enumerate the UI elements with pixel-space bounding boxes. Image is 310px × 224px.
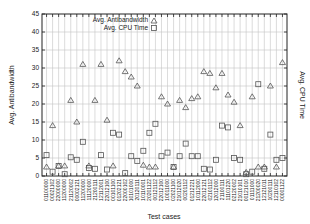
data-points <box>44 58 286 177</box>
y-tick-label: 35 <box>32 46 40 53</box>
triangle-marker-icon <box>151 18 157 23</box>
y-tick-label: 30 <box>32 64 40 71</box>
y-axis-label: Avg. Antibandwidth <box>8 65 16 125</box>
square-marker-icon <box>152 26 157 31</box>
y-tick-label: 25 <box>32 82 40 89</box>
y-tick-label: 0 <box>35 172 39 179</box>
y-tick-label: 20 <box>32 100 40 107</box>
y-tick-label: 15 <box>32 118 40 125</box>
y-tick-label: 40 <box>32 28 40 35</box>
x-tick-label: 00001122 <box>279 179 285 201</box>
y-tick-label: 45 <box>32 10 40 17</box>
y-tick-label: 10 <box>32 136 40 143</box>
legend-label-antibandwidth: Avg. Antibandwidth <box>93 16 149 24</box>
y2-axis-label: Avg. CPU Time <box>298 71 306 119</box>
scatter-chart: 051015202530354045 011000000002110222000… <box>0 0 310 224</box>
y-tick-label: 5 <box>35 154 39 161</box>
x-axis-label: Test cases <box>147 213 181 220</box>
plot-frame <box>42 14 287 176</box>
grid-lines <box>42 14 287 176</box>
legend: Avg. Antibandwidth Avg. CPU Time <box>93 16 157 32</box>
legend-label-cpu-time: Avg. CPU Time <box>104 24 149 32</box>
